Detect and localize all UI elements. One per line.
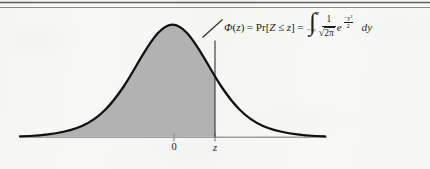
pr-operator: Pr [256,21,266,33]
exponential-term: e −y² 2 [337,22,358,33]
leader-line [203,20,223,38]
e-base: e [337,21,342,33]
exponent-denominator: 2 [344,23,353,30]
exponent-numerator: −y² [344,15,353,22]
figure-page: Φ(z)=Pr[Z≤z]= ∫ z −∞ 1 2π e −y² 2 dy 0 z [0,0,430,169]
equals-sign-1: = [244,21,255,33]
sqrt-radicand: 2π [324,27,335,38]
exponent-fraction: −y² 2 [344,15,353,30]
cdf-formula: Φ(z)=Pr[Z≤z]= ∫ z −∞ 1 2π e −y² 2 dy [224,14,372,38]
phi-symbol: Φ [224,21,233,33]
normalizing-fraction: 1 2π [322,15,336,38]
less-equal-sign: ≤ [276,21,287,33]
fraction-numerator: 1 [322,15,336,25]
axis-label-z: z [205,142,225,153]
integral-lower-limit: −∞ [306,27,316,34]
shaded-cdf-area [20,25,325,137]
equals-sign-2: = [295,21,306,33]
differential-dy: dy [362,21,373,33]
fraction-denominator: 2π [322,27,336,38]
axis-label-zero: 0 [164,141,184,152]
random-variable-Z: Z [269,21,275,33]
integral-upper-limit: z [316,10,319,17]
